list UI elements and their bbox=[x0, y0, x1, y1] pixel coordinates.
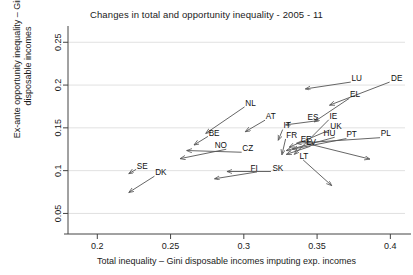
country-label-HU: HU bbox=[324, 129, 336, 138]
country-label-FI: FI bbox=[250, 164, 257, 173]
x-tick-label-0.25: 0.25 bbox=[162, 241, 180, 251]
country-label-AT: AT bbox=[266, 112, 276, 121]
country-label-SE: SE bbox=[137, 162, 148, 171]
arrow-BE bbox=[194, 136, 208, 145]
arrow-FR bbox=[282, 139, 286, 155]
country-label-EL: EL bbox=[350, 90, 360, 99]
x-tick-label-0.35: 0.35 bbox=[308, 241, 326, 251]
country-label-DE: DE bbox=[391, 74, 403, 83]
y-tick-label-0.15: 0.15 bbox=[53, 119, 63, 137]
x-tick-label-0.2: 0.2 bbox=[91, 241, 104, 251]
gridlines bbox=[68, 42, 405, 213]
y-tick-label-0.1: 0.1 bbox=[53, 164, 63, 177]
country-label-NL: NL bbox=[245, 99, 256, 108]
country-label-LU: LU bbox=[352, 74, 363, 83]
y-tick-label-0.2: 0.2 bbox=[53, 79, 63, 92]
country-label-IT: IT bbox=[283, 121, 290, 130]
country-label-LV: LV bbox=[307, 138, 317, 147]
country-label-SK: SK bbox=[272, 164, 283, 173]
country-label-PT: PT bbox=[346, 130, 356, 139]
arrow-LU bbox=[305, 82, 350, 89]
country-label-NO: NO bbox=[215, 141, 227, 150]
arrow-IT bbox=[278, 130, 282, 141]
arrow-SE bbox=[129, 169, 136, 173]
axis-lines bbox=[64, 26, 411, 234]
scatter-arrow-plot: 0.050.10.150.20.250.20.250.30.350.4 DELU… bbox=[0, 0, 413, 275]
country-label-CZ: CZ bbox=[242, 144, 253, 153]
arrow-LT bbox=[303, 160, 332, 186]
country-labels: DELUELIEESUKPLPTHUEELVLTSKFIFRITATNLBECZ… bbox=[137, 74, 403, 178]
chart-page: Changes in total and opportunity inequal… bbox=[0, 0, 413, 275]
country-label-PL: PL bbox=[381, 129, 391, 138]
country-label-ES: ES bbox=[308, 113, 319, 122]
country-label-FR: FR bbox=[286, 131, 297, 140]
x-tick-label-0.4: 0.4 bbox=[384, 241, 397, 251]
y-tick-label-0.05: 0.05 bbox=[53, 205, 63, 223]
country-label-IE: IE bbox=[330, 112, 338, 121]
country-label-LT: LT bbox=[299, 152, 308, 161]
x-tick-label-0.3: 0.3 bbox=[238, 241, 251, 251]
y-tick-label-0.25: 0.25 bbox=[53, 34, 63, 52]
arrow-AT bbox=[245, 120, 265, 132]
arrow-DK bbox=[129, 176, 155, 192]
country-label-BE: BE bbox=[209, 129, 220, 138]
arrow-FI bbox=[215, 172, 257, 179]
country-label-DK: DK bbox=[155, 168, 167, 177]
